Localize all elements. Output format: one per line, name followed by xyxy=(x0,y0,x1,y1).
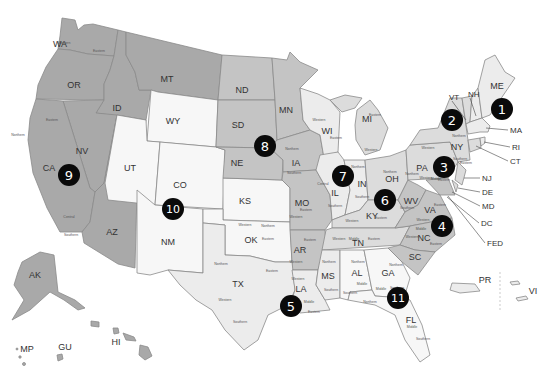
state-label-gu: GU xyxy=(58,342,72,352)
district-label: Northern xyxy=(11,133,25,137)
district-label: Northern xyxy=(351,260,365,264)
state-label-ga: GA xyxy=(381,268,394,278)
circuit-marker-8: 8 xyxy=(254,135,276,157)
callout-label-ma: MA xyxy=(510,126,522,135)
state-label-co: CO xyxy=(173,180,187,190)
state-label-ca: CA xyxy=(43,163,56,173)
state-label-ia: IA xyxy=(292,158,301,168)
district-label: Western xyxy=(290,215,303,219)
state-label-hi: HI xyxy=(112,337,121,347)
district-label: Eastern xyxy=(330,136,342,140)
state-wy xyxy=(147,90,218,147)
state-label-wy: WY xyxy=(166,116,181,126)
circuit-marker-5: 5 xyxy=(280,295,302,317)
district-label: Western xyxy=(422,146,435,150)
territory-gu xyxy=(57,354,63,361)
callout-label-nh: NH xyxy=(468,90,480,99)
state-label-ny: NY xyxy=(451,142,464,152)
district-label: Southern xyxy=(355,195,369,199)
state-label-wa: WA xyxy=(53,39,67,49)
callout-label-md: MD xyxy=(482,202,494,211)
circuit-marker-9: 9 xyxy=(58,164,80,186)
state-label-mn: MN xyxy=(279,105,293,115)
state-or xyxy=(36,49,114,100)
circuit-marker-10: 10 xyxy=(162,198,184,220)
state-label-ut: UT xyxy=(124,163,136,173)
state-label-nm: NM xyxy=(161,237,175,247)
state-label-il: IL xyxy=(331,188,339,198)
district-label: Western xyxy=(219,298,232,302)
state-label-in: IN xyxy=(358,179,367,189)
state-label-oh: OH xyxy=(385,174,399,184)
district-label: Northern xyxy=(351,165,365,169)
territory-pr xyxy=(450,283,480,293)
state-ct xyxy=(468,138,481,152)
state-label-mp: MP xyxy=(20,344,34,354)
state-ks xyxy=(223,178,290,222)
state-label-fl: FL xyxy=(406,315,417,325)
state-label-mt: MT xyxy=(161,74,174,84)
circuit-marker-3: 3 xyxy=(433,156,455,178)
district-label: Northern xyxy=(452,134,466,138)
district-label: Northern xyxy=(389,263,403,267)
district-label: Southern xyxy=(64,233,78,237)
circuit-marker-4: 4 xyxy=(431,215,453,237)
callout-label-de: DE xyxy=(482,188,493,197)
callout-label-dc: DC xyxy=(481,219,493,228)
district-label: Middle xyxy=(304,300,314,304)
district-label: Middle xyxy=(416,227,426,231)
circuit-marker-11: 11 xyxy=(387,287,409,309)
state-label-tn: TN xyxy=(352,238,364,248)
district-label: Western xyxy=(365,148,378,152)
district-label: Middle xyxy=(407,325,417,329)
district-label: Southern xyxy=(324,288,338,292)
state-label-wv: WV xyxy=(404,196,419,206)
state-label-ks: KS xyxy=(239,196,251,206)
state-label-ne: NE xyxy=(231,158,244,168)
state-label-pr: PR xyxy=(479,275,492,285)
state-label-id: ID xyxy=(113,103,122,113)
district-label: Western xyxy=(333,237,346,241)
state-label-vi: VI xyxy=(529,286,538,296)
circuit-marker-6: 6 xyxy=(374,189,396,211)
district-label: Northern xyxy=(261,224,275,228)
district-label: Northern xyxy=(214,262,228,266)
state-label-pa: PA xyxy=(416,163,427,173)
state-label-al: AL xyxy=(351,268,362,278)
district-label: Southern xyxy=(400,206,414,210)
state-label-sd: SD xyxy=(232,120,245,130)
district-label: Eastern xyxy=(266,269,278,273)
state-label-nv: NV xyxy=(76,146,89,156)
district-label: Northern xyxy=(363,300,377,304)
district-label: Eastern xyxy=(300,208,312,212)
district-label: Southern xyxy=(343,291,357,295)
state-label-mi: MI xyxy=(362,114,372,124)
district-label: Southern xyxy=(328,204,342,208)
state-label-me: ME xyxy=(490,81,504,91)
district-label: Eastern xyxy=(93,49,105,53)
state-label-az: AZ xyxy=(106,227,118,237)
territory-vi xyxy=(510,281,528,301)
district-label: Eastern xyxy=(368,237,380,241)
circuit-marker-2: 2 xyxy=(441,109,463,131)
callout-label-ct: CT xyxy=(510,157,521,166)
us-circuit-map xyxy=(0,0,544,384)
state-label-ar: AR xyxy=(294,245,307,255)
district-label: Western xyxy=(313,118,326,122)
state-label-ms: MS xyxy=(321,271,335,281)
state-label-ak: AK xyxy=(29,270,41,280)
state-mt xyxy=(126,32,222,100)
district-label: Eastern xyxy=(460,161,472,165)
district-label: Central xyxy=(63,215,74,219)
state-label-ok: OK xyxy=(244,235,257,245)
state-label-tx: TX xyxy=(232,279,244,289)
state-nj xyxy=(455,162,466,185)
state-label-or: OR xyxy=(67,80,81,90)
state-label-ky: KY xyxy=(366,211,378,221)
circuit-marker-1: 1 xyxy=(491,98,513,120)
district-label: Eastern xyxy=(304,238,316,242)
district-label: Western xyxy=(346,219,359,223)
state-label-va: VA xyxy=(424,205,435,215)
district-label: Eastern xyxy=(308,310,320,314)
district-label: Western xyxy=(290,260,303,264)
